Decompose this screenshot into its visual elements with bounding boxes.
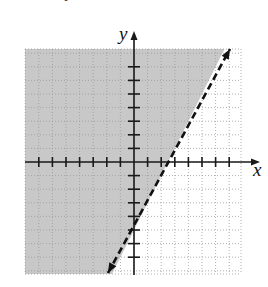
cropped-text-fragment: y xyxy=(64,0,74,1)
y-axis-arrow-icon xyxy=(131,31,138,40)
inequality-graph: y y x xyxy=(0,0,268,287)
y-axis-label: y xyxy=(117,23,128,44)
x-axis-label: x xyxy=(252,159,262,180)
